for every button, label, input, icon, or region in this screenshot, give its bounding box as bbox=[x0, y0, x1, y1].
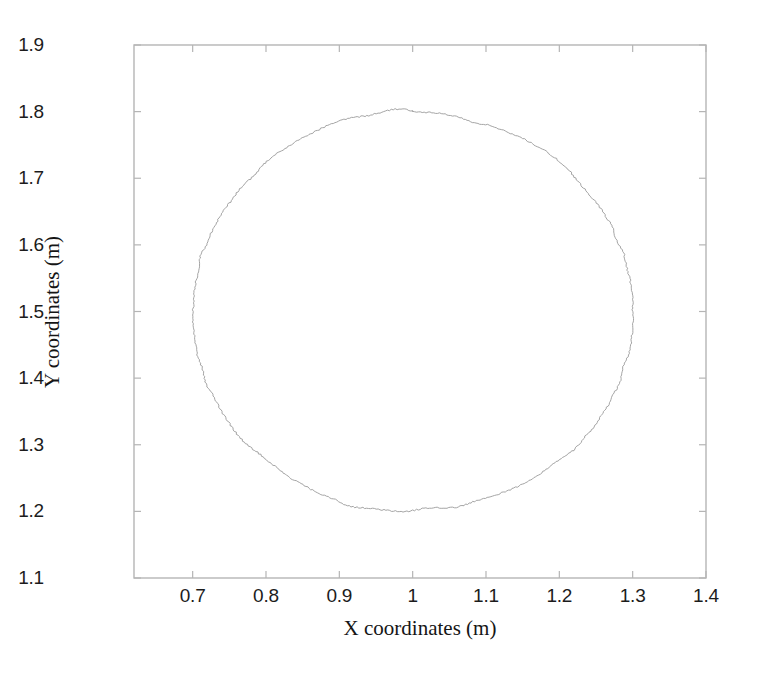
y-axis-title: Y coordinates (m) bbox=[40, 236, 65, 388]
y-tick-label: 1.8 bbox=[18, 101, 44, 123]
y-tick-label: 1.7 bbox=[18, 167, 44, 189]
x-tick-label: 0.7 bbox=[180, 585, 206, 607]
axes-box bbox=[134, 45, 706, 578]
x-axis-title: X coordinates (m) bbox=[344, 616, 497, 641]
x-tick-label: 0.8 bbox=[253, 585, 279, 607]
data-series-trajectory bbox=[192, 109, 633, 512]
x-tick-label: 1.1 bbox=[473, 585, 499, 607]
figure-canvas: 0.70.80.911.11.21.31.4 1.11.21.31.41.51.… bbox=[0, 0, 757, 674]
x-tick-label: 1.2 bbox=[546, 585, 572, 607]
y-tick-label: 1.9 bbox=[18, 34, 44, 56]
x-tick-label: 1.4 bbox=[693, 585, 719, 607]
x-tick-label: 1 bbox=[407, 585, 417, 607]
axis-ticks bbox=[134, 45, 706, 578]
plot-svg bbox=[0, 0, 757, 674]
y-tick-label: 1.3 bbox=[18, 434, 44, 456]
x-tick-label: 1.3 bbox=[620, 585, 646, 607]
x-tick-label: 0.9 bbox=[326, 585, 352, 607]
y-tick-label: 1.2 bbox=[18, 500, 44, 522]
y-tick-label: 1.1 bbox=[18, 567, 44, 589]
